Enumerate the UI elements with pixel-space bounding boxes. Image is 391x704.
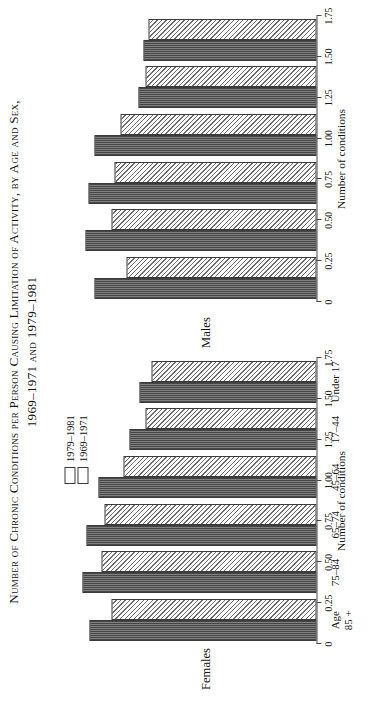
axis-tick [316,398,321,399]
axis-tick [316,561,321,562]
plot-area [60,358,317,644]
chart-legend: 1979–19811969–1971 [64,415,88,484]
axis-title: Number of conditions [334,16,346,302]
bar-1979-1981 [88,183,316,204]
plot-area [60,16,317,302]
bar-1969-1971 [111,599,316,620]
legend-item: 1979–1981 [64,415,75,484]
category-label-line: 75–84 [328,559,341,587]
bar-1979-1981 [143,40,316,61]
legend-item-label: 1969–1971 [77,415,88,462]
axis-tick [316,97,321,98]
bar-group [60,254,316,302]
page-title-line-1: Number of Chronic Conditions per Person … [5,100,20,604]
bar-1969-1971 [145,408,316,429]
category-label: 17–44 [328,416,341,444]
panel-label-males: Males [198,317,213,348]
axis-tick [316,602,321,603]
axis-tick [316,439,321,440]
category-label-line: 65–74 [328,511,341,539]
category-label-text: 45–64 [328,463,341,491]
bar-1979-1981 [129,429,316,450]
bar-1979-1981 [85,231,316,252]
legend-swatch-1979-1981 [64,467,75,484]
bar-1979-1981 [94,135,316,156]
bar-1969-1971 [145,66,316,87]
axis-tick [316,219,321,220]
panel-males: Males00.250.500.751.001.251.501.75Number… [46,14,391,348]
bar-1969-1971 [114,162,316,183]
bar-group [60,453,316,501]
axis-tick-label: 0 [322,300,333,305]
legend-item-label: 1979–1981 [64,415,75,462]
axis-tick-label: 1.50 [322,48,333,65]
bar-1979-1981 [139,382,316,403]
axis-tick [316,301,321,302]
bar-1969-1971 [151,361,316,382]
panel-label-females: Females [198,648,213,690]
category-label: Under 17 [328,361,341,402]
bar-1969-1971 [120,114,316,135]
category-label: Age85 + [328,610,353,630]
category-label: 45–64 [328,463,341,491]
bar-1969-1971 [123,456,316,477]
bar-1979-1981 [89,620,316,641]
bar-1979-1981 [98,477,316,498]
axis-tick [316,15,321,16]
bar-groups [60,358,316,644]
bar-1979-1981 [82,573,316,594]
category-label-text: 75–84 [328,559,341,587]
axis-tick-label: 0.75 [322,171,333,188]
legend-swatch-1969-1971 [77,467,88,484]
axis-tick [316,357,321,358]
category-label-line: Under 17 [328,361,341,402]
bar-group [60,596,316,644]
category-label-line: Age [328,610,341,630]
axis-tick-label: 1.00 [322,130,333,147]
axis-tick-label: 0.50 [322,212,333,229]
bar-1979-1981 [86,525,316,546]
bar-1969-1971 [104,504,316,525]
bar-group [60,406,316,454]
category-label-line: 45–64 [328,463,341,491]
axis-tick [316,480,321,481]
category-label-text: 17–44 [328,416,341,444]
page-title: Number of Chronic Conditions per Person … [4,0,40,704]
bar-group [60,111,316,159]
axis-tick-label: 0.25 [322,253,333,270]
bar-1969-1971 [126,257,316,278]
category-label-text: 65–74 [328,511,341,539]
legend-item: 1969–1971 [77,415,88,484]
bar-group [60,159,316,207]
bar-1979-1981 [138,87,317,108]
bar-1969-1971 [111,210,316,231]
axis-tick-label: 1.25 [322,89,333,106]
panel-females: Females00.250.500.751.001.251.501.75Numb… [46,356,391,690]
axis-tick-label: 0 [322,642,333,647]
bar-group [60,501,316,549]
axis-tick [316,643,321,644]
axis-tick [316,178,321,179]
category-label-text: Under 17 [328,361,341,402]
bar-group [60,358,316,406]
bar-group [60,549,316,597]
bar-group [60,64,316,112]
rotated-figure-container: Number of Chronic Conditions per Person … [0,0,391,704]
page-title-line-2: 1969–1971 and 1979–1981 [22,0,40,704]
axis-tick-label: 1.75 [322,8,333,25]
category-label: 65–74 [328,511,341,539]
axis-tick [316,520,321,521]
bar-1969-1971 [101,552,316,573]
bar-1969-1971 [148,19,316,40]
axis-tick [316,56,321,57]
bar-1979-1981 [94,278,316,299]
category-label-line: 17–44 [328,416,341,444]
category-label: 75–84 [328,559,341,587]
axis-tick-label: 0.25 [322,595,333,612]
bar-group [60,207,316,255]
chart-panels: Females00.250.500.751.001.251.501.75Numb… [46,0,391,704]
axis-tick [316,260,321,261]
category-label-line: 85 + [341,610,354,630]
bar-groups [60,16,316,302]
bar-group [60,16,316,64]
